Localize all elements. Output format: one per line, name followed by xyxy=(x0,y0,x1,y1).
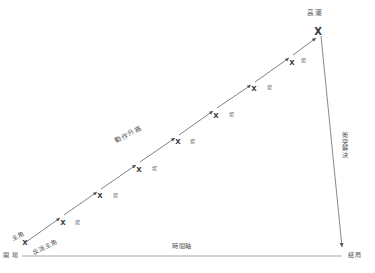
scene-label: 場 xyxy=(152,164,157,171)
scene-marker-x: X xyxy=(251,85,256,93)
ending-label: 結局 xyxy=(348,252,361,258)
conflict-resolution-label: 衝突解決 xyxy=(341,132,347,158)
diagram-canvas xyxy=(0,0,375,273)
scene-label: 場 xyxy=(267,83,272,90)
scene-marker-x: X xyxy=(22,239,27,247)
rising-action-line xyxy=(26,38,316,242)
scene-marker-x: X xyxy=(289,59,294,67)
scene-label: 場 xyxy=(229,110,234,117)
scene-label: 場 xyxy=(190,137,195,144)
scene-marker-x: X xyxy=(213,112,218,120)
opening-label: 開 場 xyxy=(3,252,18,258)
scene-marker-x: X xyxy=(60,219,65,227)
climax-label: 高潮 xyxy=(307,10,322,17)
story-structure-diagram: X X X X X X X X X 場 場 場 場 場 場 場 主角 反派主角 … xyxy=(0,0,375,273)
scene-marker-x: X xyxy=(175,138,180,146)
scene-marker-x: X xyxy=(97,192,102,200)
scene-label: 場 xyxy=(301,56,306,63)
scene-marker-x: X xyxy=(136,166,141,174)
conflict-resolution-line xyxy=(321,36,342,247)
time-axis-label: 時間軸 xyxy=(172,243,192,249)
climax-marker-x: X xyxy=(314,26,322,37)
scene-label: 場 xyxy=(75,218,80,225)
scene-label: 場 xyxy=(113,191,118,198)
